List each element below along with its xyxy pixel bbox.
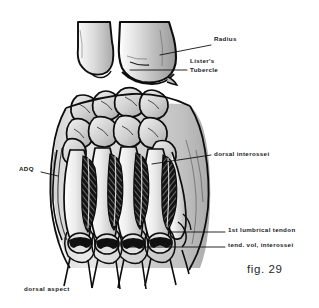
label-adq: ADQ [19,165,34,173]
label-listers-tubercle: Lister's Tubercle [190,56,218,74]
hand-anatomy-illustration [0,0,319,308]
label-listers-tubercle-line2: Tubercle [190,65,218,74]
figure-number-caption: fig. 29 [247,263,283,275]
anatomical-figure: Radius Lister's Tubercle dorsal inteross… [0,0,319,308]
label-listers-tubercle-line1: Lister's [190,56,218,65]
label-dorsal-interossei: dorsal interossei [214,150,269,158]
label-radius: Radius [214,35,237,43]
view-aspect-caption: dorsal aspect [24,285,70,292]
label-tendon-volar-interossei: tend. vol, interossei [228,241,293,249]
ulna-bone [78,22,114,78]
forearm-bones [78,22,177,85]
label-first-lumbrical-tendon: 1st lumbrical tendon [228,226,296,234]
